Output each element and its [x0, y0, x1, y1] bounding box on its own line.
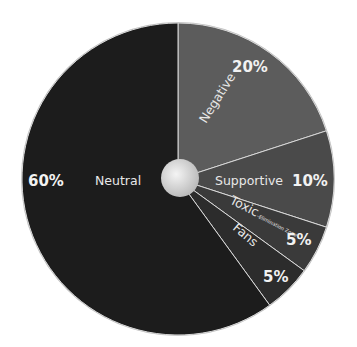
label-neutral-name: Neutral: [95, 173, 141, 188]
pie-chart: 20% Negative Supportive 10% Toxic -Elimi…: [0, 0, 357, 347]
label-supportive-name: Supportive: [215, 173, 283, 188]
label-neutral-pct: 60%: [28, 172, 64, 190]
label-supportive-pct: 10%: [292, 172, 328, 190]
label-fans-pct: 5%: [263, 268, 288, 286]
label-toxic-pct: 5%: [286, 231, 311, 249]
label-negative-pct: 20%: [232, 58, 268, 76]
center-hole: [161, 159, 199, 197]
